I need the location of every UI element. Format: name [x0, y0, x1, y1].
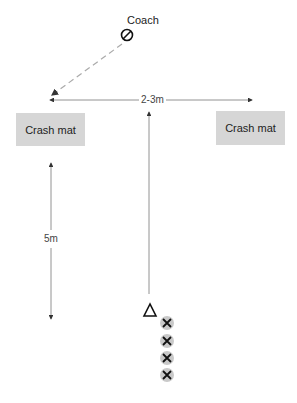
x-icon [162, 353, 172, 363]
x-icon [162, 370, 172, 380]
player-marker [160, 334, 174, 348]
player-marker [160, 368, 174, 382]
coach-path-dashed [52, 44, 122, 95]
x-icon [162, 336, 172, 346]
crash-mat-right: Crash mat [216, 111, 285, 145]
player-marker [160, 351, 174, 365]
triangle-icon [144, 304, 156, 316]
spacing-label: 2-3m [139, 94, 166, 106]
player-marker [160, 316, 174, 330]
crash-mat-left: Crash mat [16, 113, 85, 146]
x-icon [162, 318, 172, 328]
circle-slash-icon [122, 30, 133, 41]
diagram-lines [0, 0, 297, 403]
distance-label: 5m [42, 233, 60, 245]
coach-label: Coach [127, 14, 159, 26]
